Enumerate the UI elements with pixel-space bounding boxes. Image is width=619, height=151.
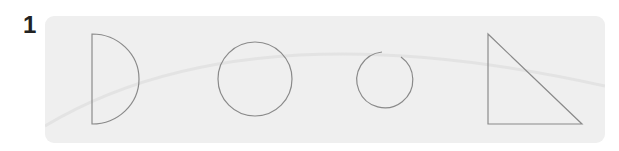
shapes-panel [45, 16, 605, 143]
semicircle-shape[interactable] [92, 34, 139, 124]
shapes-canvas [45, 16, 605, 143]
question-number: 1 [23, 13, 36, 37]
circle-shape[interactable] [218, 42, 292, 116]
open-circle-shape[interactable] [357, 52, 413, 108]
